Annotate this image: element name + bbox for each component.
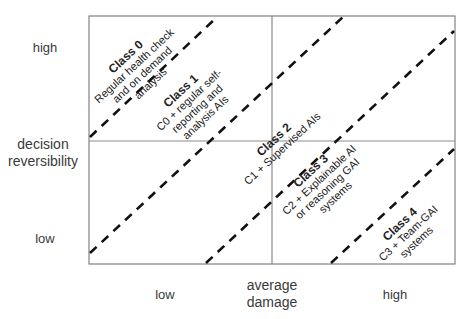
x-axis-title-line2: damage: [232, 294, 312, 311]
y-axis-low-label: low: [20, 231, 70, 246]
x-axis-title-line1: average: [232, 277, 312, 294]
y-axis-title-line1: decision: [0, 136, 86, 153]
y-axis-title: decision reversibility: [0, 136, 86, 170]
y-axis-title-line2: reversibility: [0, 153, 86, 170]
y-axis-high-label: high: [20, 40, 70, 55]
x-axis-high-label: high: [370, 287, 420, 302]
x-axis-low-label: low: [140, 287, 190, 302]
x-axis-title: average damage: [232, 277, 312, 311]
